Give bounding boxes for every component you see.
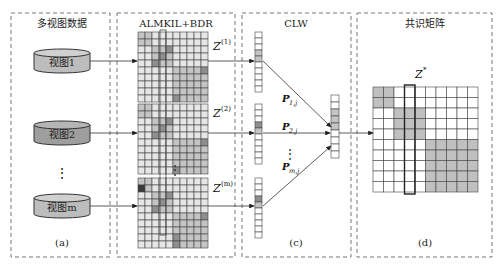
vector-cell [255, 152, 262, 158]
matrix-cell [145, 32, 152, 39]
consensus-cell [405, 182, 416, 193]
matrix-cell [173, 139, 180, 146]
svg-text:(2): (2) [221, 105, 231, 113]
consensus-cell [426, 171, 437, 182]
weight-pm-label: P m,j [281, 161, 299, 175]
matrix-cell [173, 146, 180, 153]
matrix-cell [187, 46, 194, 53]
matrix-cell [152, 213, 159, 220]
matrix-cell [194, 178, 201, 185]
matrix-cell [187, 125, 194, 132]
consensus-cell [384, 108, 395, 119]
matrix-cell [187, 39, 194, 46]
consensus-cell [468, 87, 479, 98]
matrix-cell [152, 153, 159, 160]
consensus-cell [457, 161, 468, 172]
vector-cell [255, 104, 262, 110]
matrix-cell [152, 160, 159, 167]
matrix-cell [194, 111, 201, 118]
consensus-cell [405, 161, 416, 172]
matrix-cell [187, 213, 194, 220]
consensus-cell [447, 119, 458, 130]
consensus-cell [447, 150, 458, 161]
consensus-cell [405, 119, 416, 130]
matrix-cell [166, 32, 173, 39]
matrix-cell [180, 118, 187, 125]
matrix-cell [187, 160, 194, 167]
matrix-cell [152, 139, 159, 146]
matrix-cell [194, 234, 201, 241]
consensus-cell [384, 150, 395, 161]
matrix-cell [138, 111, 145, 118]
matrix-cell [152, 241, 159, 248]
matrix-cell [166, 88, 173, 95]
matrix-cell [166, 118, 173, 125]
vector-cell [255, 56, 262, 62]
matrix-cell [145, 206, 152, 213]
matrix-cell [166, 81, 173, 88]
vector-cell [255, 50, 262, 56]
consensus-cell [415, 161, 426, 172]
matrix-cell [145, 178, 152, 185]
matrix-cell [145, 125, 152, 132]
matrix-cell [166, 53, 173, 60]
matrix-cell [201, 132, 208, 139]
consensus-cell [447, 98, 458, 109]
matrix-cell [180, 67, 187, 74]
matrix-cell [180, 74, 187, 81]
matrix-cell [194, 213, 201, 220]
matrix-cell [166, 111, 173, 118]
consensus-cell [436, 129, 447, 140]
aggregate-vector-cell [331, 95, 339, 102]
consensus-cell [426, 119, 437, 130]
matrix-cell [152, 104, 159, 111]
consensus-cell [405, 129, 416, 140]
matrix-cell [194, 146, 201, 153]
matrix-cell [194, 39, 201, 46]
matrix-cell [173, 111, 180, 118]
consensus-cell [426, 87, 437, 98]
matrix-cell [166, 146, 173, 153]
vector-cell [255, 32, 262, 38]
matrix-cell [201, 206, 208, 213]
matrix-cell [138, 46, 145, 53]
matrix-cell [194, 46, 201, 53]
matrix-cell [194, 167, 201, 174]
matrix-cell [138, 88, 145, 95]
matrix-cell [180, 146, 187, 153]
matrix-cell [201, 95, 208, 102]
consensus-cell [436, 98, 447, 109]
consensus-cell [394, 129, 405, 140]
vector-cell [255, 122, 262, 128]
vector-cell [255, 214, 262, 220]
matrix-cell [187, 139, 194, 146]
vector-cell [255, 220, 262, 226]
consensus-cell [426, 150, 437, 161]
view-2-cylinder: 视图2 [34, 121, 90, 145]
consensus-cell [405, 108, 416, 119]
vector-cell [255, 62, 262, 68]
matrix-cell [152, 95, 159, 102]
panel-d-caption: (d) [418, 237, 432, 248]
consensus-cell [415, 140, 426, 151]
matrix-cell [201, 67, 208, 74]
matrix-cell [201, 32, 208, 39]
matrix-cell [201, 192, 208, 199]
matrix-cell [187, 32, 194, 39]
matrix-cell [180, 213, 187, 220]
matrix-cell [201, 220, 208, 227]
matrix-cell [138, 192, 145, 199]
matrix-cell [152, 46, 159, 53]
consensus-cell [384, 129, 395, 140]
consensus-cell [457, 182, 468, 193]
matrix-cell [180, 178, 187, 185]
matrix-cell [201, 241, 208, 248]
matrix-cell [138, 39, 145, 46]
matrix-cell [173, 53, 180, 60]
consensus-cell [405, 87, 416, 98]
matrix-cell [173, 199, 180, 206]
consensus-cell [457, 108, 468, 119]
matrix-cell [138, 178, 145, 185]
matrix-cell [166, 46, 173, 53]
consensus-cell [447, 161, 458, 172]
